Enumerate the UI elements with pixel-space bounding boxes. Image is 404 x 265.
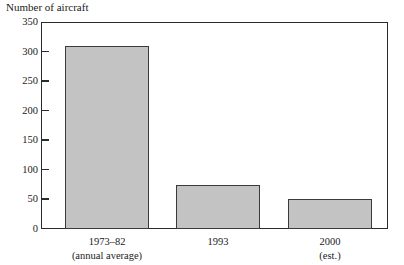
y-axis-tick-mark — [41, 139, 49, 141]
y-axis-tick-label: 50 — [4, 194, 38, 204]
bar — [176, 185, 260, 229]
y-axis-tick-label: 250 — [4, 76, 38, 86]
x-axis-label-line2: (est.) — [240, 249, 404, 263]
bar — [65, 46, 149, 229]
bar — [288, 199, 372, 229]
y-axis-tick-label: 350 — [4, 17, 38, 27]
y-axis-tick-label: 0 — [4, 224, 38, 234]
bar-chart: Number of aircraft 350300250200150100500… — [0, 0, 404, 265]
y-axis-tick-mark — [41, 110, 49, 112]
y-axis-tick-label: 100 — [4, 165, 38, 175]
x-axis-label: 2000(est.) — [240, 235, 404, 262]
y-axis-tick-label: 150 — [4, 135, 38, 145]
y-axis-tick-mark — [41, 80, 49, 82]
y-axis-tick-label: 200 — [4, 106, 38, 116]
y-axis-tick-mark — [41, 198, 49, 200]
x-axis-label-line1: 1993 — [208, 236, 229, 247]
y-axis-tick-label: 300 — [4, 47, 38, 57]
y-axis-tick-mark — [41, 169, 49, 171]
x-axis-label-line1: 2000 — [320, 236, 341, 247]
y-axis-tick-mark — [41, 51, 49, 53]
x-axis-label-line2: (annual average) — [17, 249, 197, 263]
y-axis-title: Number of aircraft — [6, 1, 88, 14]
x-axis-label-line1: 1973–82 — [89, 236, 126, 247]
